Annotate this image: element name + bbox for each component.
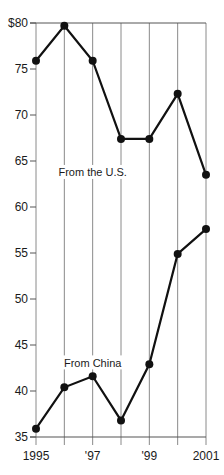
data-point-marker <box>202 171 210 179</box>
data-point-marker <box>145 135 153 143</box>
data-point-marker <box>60 383 68 391</box>
y-tick-label: 70 <box>15 108 29 122</box>
data-point-marker <box>117 135 125 143</box>
data-point-marker <box>202 225 210 233</box>
x-tick-label: 2001 <box>193 449 220 463</box>
y-axis: 354045505560657075$80 <box>8 16 36 444</box>
y-tick-label: 55 <box>15 246 29 260</box>
data-point-marker <box>60 22 68 30</box>
y-tick-label: 35 <box>15 430 29 444</box>
data-point-marker <box>32 57 40 65</box>
data-point-marker <box>89 57 97 65</box>
y-tick-label: 45 <box>15 338 29 352</box>
series-label: From the U.S. <box>58 166 126 178</box>
x-axis: 1995'97'992001 <box>23 449 220 463</box>
data-point-marker <box>174 90 182 98</box>
y-tick-label: 50 <box>15 292 29 306</box>
y-tick-label: 75 <box>15 62 29 76</box>
data-point-marker <box>89 372 97 380</box>
y-tick-label: $80 <box>8 16 28 30</box>
data-point-marker <box>32 425 40 433</box>
line-chart: 354045505560657075$80 1995'97'992001 Fro… <box>0 0 224 475</box>
x-tick-label: 1995 <box>23 449 50 463</box>
data-point-marker <box>145 360 153 368</box>
vertical-gridlines <box>30 23 206 445</box>
data-point-marker <box>174 250 182 258</box>
y-tick-label: 40 <box>15 384 29 398</box>
data-point-marker <box>117 416 125 424</box>
y-tick-label: 60 <box>15 200 29 214</box>
x-tick-label: '97 <box>85 449 101 463</box>
y-tick-label: 65 <box>15 154 29 168</box>
series-label: From China <box>64 357 122 369</box>
x-tick-label: '99 <box>142 449 158 463</box>
